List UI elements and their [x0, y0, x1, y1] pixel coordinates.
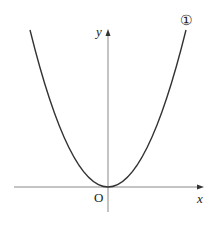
- y-axis-label: y: [94, 24, 102, 39]
- x-axis-arrow-icon: [197, 185, 204, 190]
- x-axis-label: x: [196, 191, 203, 206]
- origin-label: O: [94, 190, 103, 205]
- curve-label: ①: [180, 13, 193, 28]
- y-axis-arrow-icon: [106, 29, 111, 36]
- parabola-diagram: y x O ①: [0, 0, 217, 225]
